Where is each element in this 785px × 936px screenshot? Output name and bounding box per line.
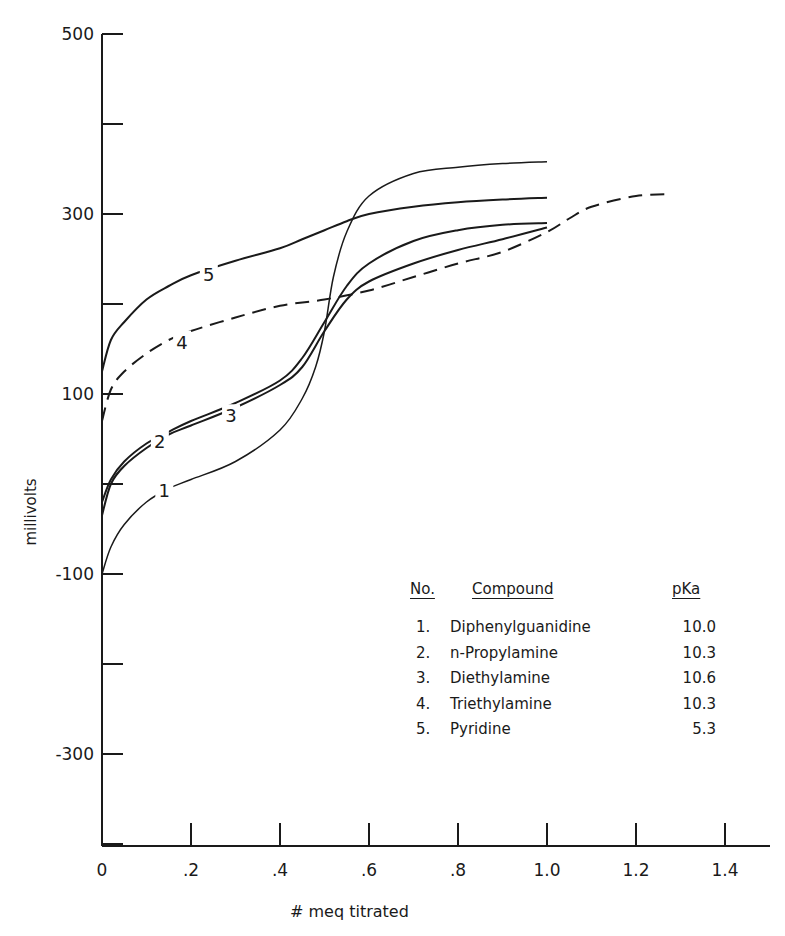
legend-no: 2.	[416, 644, 430, 662]
legend-no: 3.	[416, 669, 430, 687]
curve-4	[102, 194, 672, 421]
curve-label-2: 2	[154, 431, 165, 452]
legend-row: 2. n-Propylamine 10.3	[410, 644, 730, 670]
legend-no: 5.	[416, 720, 430, 738]
y-tick-label: 100	[62, 384, 94, 404]
x-tick-label: .8	[450, 860, 466, 880]
curve-label-1: 1	[159, 480, 170, 501]
x-tick-label: 1.4	[711, 860, 738, 880]
legend-header: No. Compound pKa	[410, 580, 730, 608]
legend-pka: 10.6	[683, 669, 716, 687]
y-tick-label: 500	[62, 24, 94, 44]
legend-header-compound: Compound	[472, 580, 554, 598]
x-tick-label: 0	[97, 860, 108, 880]
legend-row: 4. Triethylamine 10.3	[410, 695, 730, 721]
legend-row: 1. Diphenylguanidine 10.0	[410, 618, 730, 644]
legend-compound: Diethylamine	[450, 669, 550, 687]
curve-label-3: 3	[225, 405, 236, 426]
x-tick-label: 1.0	[533, 860, 560, 880]
legend-no: 4.	[416, 695, 430, 713]
legend-pka: 10.3	[683, 695, 716, 713]
legend-pka: 5.3	[692, 720, 716, 738]
curves	[102, 162, 672, 574]
titration-chart: 500300100-100-300 0.2.4.6.81.01.21.4 123…	[0, 0, 785, 936]
curve-label-4: 4	[176, 332, 187, 353]
legend-pka: 10.0	[683, 618, 716, 636]
legend-compound: Pyridine	[450, 720, 511, 738]
y-ticks: 500300100-100-300	[55, 24, 123, 844]
curve-label-5: 5	[203, 264, 214, 285]
legend-header-pka: pKa	[672, 580, 700, 598]
legend-pka: 10.3	[683, 644, 716, 662]
legend-compound: n-Propylamine	[450, 644, 558, 662]
legend-header-no: No.	[410, 580, 435, 598]
legend-no: 1.	[416, 618, 430, 636]
x-tick-label: .4	[272, 860, 288, 880]
curve-2	[102, 223, 547, 502]
x-axis-title: # meq titrated	[290, 902, 409, 921]
legend-row: 3. Diethylamine 10.6	[410, 669, 730, 695]
y-tick-label: -300	[55, 744, 94, 764]
x-ticks: 0.2.4.6.81.01.21.4	[97, 823, 739, 880]
legend-compound: Diphenylguanidine	[450, 618, 591, 636]
x-tick-label: .6	[361, 860, 377, 880]
curve-1	[102, 162, 547, 574]
legend-table: No. Compound pKa 1. Diphenylguanidine 10…	[410, 580, 730, 746]
curve-3	[102, 228, 547, 516]
y-axis-title: millivolts	[22, 478, 40, 545]
x-tick-label: 1.2	[622, 860, 649, 880]
legend-row: 5. Pyridine 5.3	[410, 720, 730, 746]
legend-compound: Triethylamine	[450, 695, 552, 713]
y-tick-label: -100	[55, 564, 94, 584]
y-tick-label: 300	[62, 204, 94, 224]
curve-5	[102, 198, 547, 372]
x-tick-label: .2	[183, 860, 199, 880]
